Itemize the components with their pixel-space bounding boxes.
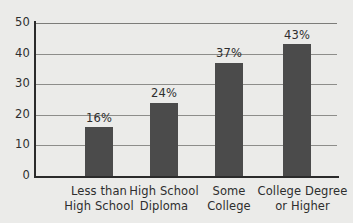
bar-less-than-high-school[interactable] (85, 127, 113, 176)
x-category-line-1: High School (129, 184, 198, 198)
bar-value-label-0: 16% (69, 112, 129, 124)
bar-some-college[interactable] (215, 63, 243, 176)
x-category-line-2: or Higher (252, 199, 353, 214)
bar-high-school-diploma[interactable] (150, 103, 178, 177)
bar-value-label-1: 24% (134, 87, 194, 99)
x-category-line-1: Some (212, 184, 245, 198)
bar-college-degree-or-higher[interactable] (283, 44, 311, 176)
bar-value-label-2: 37% (199, 47, 259, 59)
bar-value-label-3: 43% (267, 29, 327, 41)
bar-chart: 50 40 30 20 10 0 16% 24% 37% 43% Less th… (0, 0, 353, 223)
x-category-line-1: College Degree (258, 184, 348, 198)
x-category-label-college-degree-or-higher: College Degree or Higher (252, 184, 353, 214)
